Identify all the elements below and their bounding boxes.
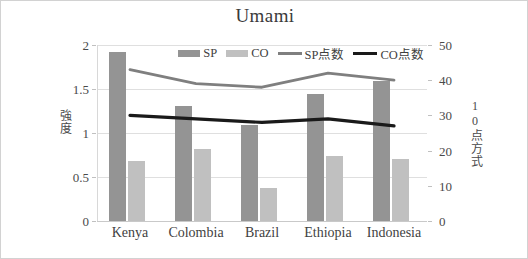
legend-line-swatch-icon: [278, 52, 302, 55]
y-axis-right-tick-mark: [428, 151, 432, 152]
y-axis-right-tick-mark: [428, 221, 432, 222]
y-axis-right-tick-mark: [428, 80, 432, 81]
y-axis-right-tick-label: 0: [439, 214, 483, 230]
chart-title: Umami: [1, 5, 528, 27]
line-series-layer: [97, 45, 427, 221]
legend-line-swatch-icon: [353, 52, 377, 55]
legend-label: SP: [203, 46, 217, 61]
line-sp-score: [130, 70, 394, 88]
legend-item[interactable]: CO点数: [353, 44, 423, 63]
x-axis-category-label: Brazil: [229, 225, 295, 249]
chart-container: Umami 強度 10点方式 00.511.52 01020304050 Ken…: [0, 0, 528, 259]
chart-legend: SPCOSP点数CO点数: [151, 45, 451, 61]
legend-item[interactable]: SP: [178, 46, 217, 61]
y-axis-right-tick-label: 40: [439, 73, 483, 89]
y-axis-left-tick-label: 2: [45, 38, 89, 54]
y-axis-left-tick-label: 1.5: [45, 82, 89, 98]
x-axis-category-label: Colombia: [163, 225, 229, 249]
y-axis-left-tick-mark: [92, 221, 96, 222]
x-axis-category-label: Indonesia: [361, 225, 427, 249]
y-axis-left-tick-mark: [92, 89, 96, 90]
y-axis-left-tick-mark: [92, 45, 96, 46]
y-axis-left-tick-mark: [92, 177, 96, 178]
legend-label: CO点数: [380, 44, 423, 63]
y-axis-right-tick-label: 10: [439, 179, 483, 195]
y-axis-right-tick-label: 30: [439, 108, 483, 124]
x-axis-category-labels: KenyaColombiaBrazilEthiopiaIndonesia: [97, 225, 427, 249]
y-axis-left-tick-mark: [92, 133, 96, 134]
y-axis-left-tick-label: 0.5: [45, 170, 89, 186]
y-axis-right-tick-mark: [428, 115, 432, 116]
plot-area: [97, 45, 427, 221]
legend-item[interactable]: CO: [226, 46, 268, 61]
y-axis-right-tick-label: 20: [439, 144, 483, 160]
x-axis-category-label: Kenya: [97, 225, 163, 249]
legend-bar-swatch-icon: [178, 50, 200, 57]
y-axis-left-tick-label: 0: [45, 214, 89, 230]
legend-label: CO: [251, 46, 268, 61]
x-axis-line: [97, 221, 427, 222]
x-axis-category-label: Ethiopia: [295, 225, 361, 249]
legend-bar-swatch-icon: [226, 50, 248, 57]
y-axis-right-tick-mark: [428, 186, 432, 187]
y-axis-left-tick-label: 1: [45, 126, 89, 142]
line-co-score: [130, 115, 394, 126]
legend-item[interactable]: SP点数: [278, 44, 345, 63]
legend-label: SP点数: [305, 44, 345, 63]
